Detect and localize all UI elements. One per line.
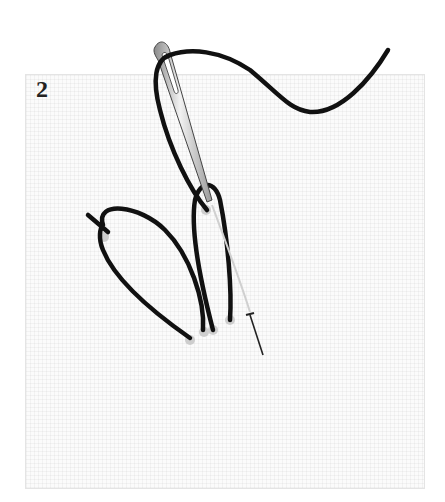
pin: [246, 313, 263, 355]
loop-stitch-1: [88, 209, 203, 338]
stitch-illustration: [0, 0, 445, 502]
